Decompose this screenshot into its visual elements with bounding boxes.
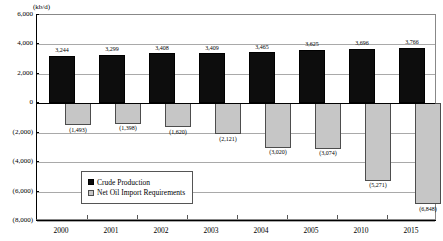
bar-crude-production <box>299 50 325 103</box>
bar-value-label-net-oil-import-requirements: (2,121) <box>206 136 250 142</box>
x-axis-tick-mark <box>387 215 388 219</box>
x-axis-tick-mark <box>187 215 188 219</box>
y-axis-unit-label: (kb/d) <box>33 3 50 11</box>
x-axis-tick-mark <box>237 215 238 219</box>
bar-net-oil-import-requirements <box>165 103 191 127</box>
bar-net-oil-import-requirements <box>315 103 341 148</box>
bar-crude-production <box>349 49 375 103</box>
y-axis-tick-mark <box>36 14 39 15</box>
x-axis-tick-mark <box>87 215 88 219</box>
bar-value-label-crude-production: 3,696 <box>340 40 384 46</box>
y-axis-tick-label: 6,000 <box>17 10 33 18</box>
y-axis-tick-mark <box>36 132 39 133</box>
bar-value-label-crude-production: 3,766 <box>390 39 434 45</box>
bar-crude-production <box>399 48 425 103</box>
legend-swatch-net-oil-import-requirements <box>88 190 94 196</box>
bar-net-oil-import-requirements <box>365 103 391 181</box>
bar-net-oil-import-requirements <box>415 103 441 204</box>
y-axis-tick-mark <box>36 191 39 192</box>
x-axis-label: 2004 <box>236 226 286 235</box>
bar-net-oil-import-requirements <box>115 103 141 124</box>
y-axis-tick-mark <box>36 73 39 74</box>
bar-value-label-net-oil-import-requirements: (1,398) <box>106 125 150 131</box>
bar-value-label-net-oil-import-requirements: (6,848) <box>406 206 443 212</box>
x-axis-label: 2015 <box>386 226 436 235</box>
x-axis-tick-mark <box>337 215 338 219</box>
bar-crude-production <box>99 55 125 104</box>
bar-value-label-crude-production: 3,299 <box>90 46 134 52</box>
bar-value-label-crude-production: 3,625 <box>290 41 334 47</box>
bar-net-oil-import-requirements <box>265 103 291 147</box>
gridline <box>37 74 435 75</box>
x-axis-label: 2002 <box>136 226 186 235</box>
y-axis-tick-mark <box>36 220 39 221</box>
y-axis-tick-label: (6,000) <box>13 187 33 195</box>
x-axis-label: 2000 <box>36 226 86 235</box>
legend: Crude Production Net Oil Import Requirem… <box>81 171 193 204</box>
bar-value-label-net-oil-import-requirements: (5,271) <box>356 182 400 188</box>
x-axis-baseline <box>36 220 436 221</box>
x-axis-label: 2005 <box>286 226 336 235</box>
bar-crude-production <box>199 53 225 103</box>
bar-value-label-net-oil-import-requirements: (3,074) <box>306 150 350 156</box>
bar-chart: (kb/d) 6,0004,0002,0000(2,000)(4,000)(6,… <box>0 0 443 241</box>
x-axis-label: 2003 <box>186 226 236 235</box>
y-axis-tick-mark <box>36 102 39 103</box>
gridline <box>37 221 435 222</box>
bar-value-label-net-oil-import-requirements: (3,020) <box>256 149 300 155</box>
bar-value-label-crude-production: 3,409 <box>190 45 234 51</box>
y-axis-tick-label: 2,000 <box>17 69 33 77</box>
legend-label-net-oil-import-requirements: Net Oil Import Requirements <box>97 188 185 197</box>
bar-value-label-net-oil-import-requirements: (1,620) <box>156 129 200 135</box>
x-axis-tick-mark <box>137 215 138 219</box>
bar-crude-production <box>149 53 175 103</box>
bar-value-label-crude-production: 3,465 <box>240 44 284 50</box>
bar-value-label-crude-production: 3,408 <box>140 45 184 51</box>
legend-item-net-oil-import-requirements: Net Oil Import Requirements <box>88 188 185 197</box>
y-axis-tick-label: (4,000) <box>13 157 33 165</box>
zero-line <box>37 103 435 104</box>
x-axis-tick-mark <box>287 215 288 219</box>
x-axis-label: 2001 <box>86 226 136 235</box>
bar-net-oil-import-requirements <box>65 103 91 125</box>
bar-crude-production <box>249 52 275 103</box>
y-axis: 6,0004,0002,0000(2,000)(4,000)(6,000)(8,… <box>0 14 33 220</box>
y-axis-tick-label: 4,000 <box>17 39 33 47</box>
y-axis-tick-label: (8,000) <box>13 216 33 224</box>
legend-swatch-crude-production <box>88 179 94 185</box>
x-axis-label: 2010 <box>336 226 386 235</box>
y-axis-tick-label: 0 <box>30 98 34 106</box>
bar-crude-production <box>49 56 75 104</box>
bar-value-label-net-oil-import-requirements: (1,493) <box>56 127 100 133</box>
y-axis-tick-label: (2,000) <box>13 128 33 136</box>
y-axis-tick-mark <box>36 161 39 162</box>
bar-value-label-crude-production: 3,244 <box>40 47 84 53</box>
y-axis-tick-mark <box>36 43 39 44</box>
bar-net-oil-import-requirements <box>215 103 241 134</box>
legend-item-crude-production: Crude Production <box>88 178 185 187</box>
legend-label-crude-production: Crude Production <box>97 178 150 187</box>
